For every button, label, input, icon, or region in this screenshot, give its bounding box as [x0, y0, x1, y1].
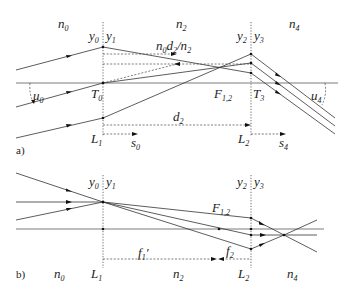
point-crossing	[283, 234, 286, 237]
point-t0-label: T0	[91, 86, 102, 103]
lens-l1-label-b: L1	[90, 266, 102, 283]
lens-l2-label-a: L2	[237, 131, 249, 148]
ray-mid-in	[16, 83, 103, 107]
plane-y2-a: y2	[235, 28, 247, 45]
medium-n4-b: n4	[287, 266, 298, 283]
angle-u4-label: u4	[311, 88, 322, 105]
plane-y0-b: y0	[87, 174, 99, 191]
plane-y3-a: y3	[252, 28, 264, 45]
arrow-icon	[66, 189, 72, 192]
point-y2-top	[250, 53, 253, 56]
ray-1-out-ext	[284, 220, 317, 235]
plane-y2-b: y2	[235, 174, 247, 191]
arrow-right-icon	[211, 257, 217, 261]
optics-diagram: n0 n2 n4 y0 y1 y2 y3 n0d2/n2 T0 T3 F1,2 …	[0, 0, 354, 296]
arrow-left-icon	[218, 257, 224, 261]
plane-y3-b: y3	[252, 174, 264, 191]
point-l2-axis	[250, 228, 253, 231]
ray-top-out	[251, 54, 335, 118]
point-t3-label: T3	[253, 86, 264, 103]
point-l1-convergence	[102, 201, 105, 204]
medium-n0-b: n0	[54, 266, 65, 283]
point-l1-axis	[102, 228, 105, 231]
distance-d2-label: d2	[173, 109, 184, 126]
angle-u0-label: u0	[33, 88, 44, 105]
ray-3-in	[16, 202, 103, 220]
medium-n2-a: n2	[176, 16, 187, 33]
point-l2-3	[250, 248, 253, 251]
point-y2-mid	[250, 62, 253, 65]
plane-y1-a: y1	[104, 28, 116, 45]
point-l2-2	[250, 234, 253, 237]
arrow-right-icon	[245, 123, 251, 127]
arrow-icon	[66, 208, 72, 211]
ray-bottom-out	[251, 73, 335, 134]
ray-2-mid	[103, 202, 251, 235]
arrow-icon	[259, 243, 265, 247]
medium-n0-a: n0	[58, 16, 69, 33]
focal-point-f12-label-b: F1,2	[211, 200, 230, 217]
point-y1-bottom	[102, 117, 105, 120]
panel-b: y0 y1 y2 y3 F1,2 f1′ f2 b) n0 L1 n2 L2 n…	[16, 173, 324, 283]
arrow-icon	[275, 90, 281, 95]
focal-point-f12-label-a: F1,2	[213, 86, 232, 103]
ray-bottom-in	[16, 118, 103, 138]
arrow-icon	[66, 91, 72, 94]
lens-l2-label-b: L2	[237, 266, 249, 283]
ray-1-out	[251, 235, 284, 249]
ray-top-in	[16, 47, 103, 70]
arrow-icon	[260, 233, 266, 237]
point-t0	[102, 82, 105, 85]
panel-a: n0 n2 n4 y0 y1 y2 y3 n0d2/n2 T0 T3 F1,2 …	[16, 0, 338, 157]
distance-s4-label: s4	[279, 135, 288, 152]
point-f12	[218, 228, 221, 231]
arrow-icon	[66, 55, 72, 58]
medium-n4-a: n4	[289, 16, 300, 33]
ray-mid-mid	[103, 63, 251, 83]
construction-diagonal	[103, 64, 177, 83]
arrow-icon	[66, 200, 72, 204]
arrow-icon	[66, 124, 72, 128]
lens-l1-label-a: L1	[90, 131, 102, 148]
f1-prime-label: f1′	[138, 245, 149, 262]
panel-label-a: a)	[16, 144, 25, 157]
point-y1-top	[102, 46, 105, 49]
arrow-icon	[275, 73, 281, 78]
reduced-distance-label: n0d2/n2	[156, 38, 191, 55]
medium-n2-b: n2	[173, 266, 184, 283]
distance-s0-label: s0	[131, 135, 140, 152]
plane-y0-a: y0	[87, 28, 99, 45]
panel-label-b: b)	[16, 268, 26, 281]
f2-label: f2	[226, 243, 234, 260]
angle-arc-u4	[322, 83, 326, 105]
point-y2-bottom	[250, 72, 253, 75]
plane-y1-b: y1	[104, 174, 116, 191]
point-l2-1	[250, 217, 253, 220]
